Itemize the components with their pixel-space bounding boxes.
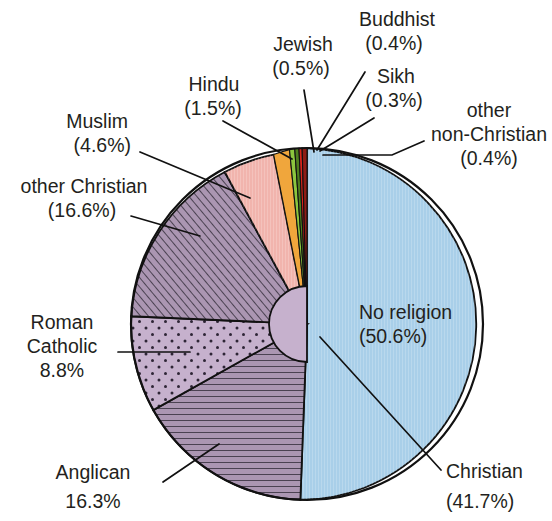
- label-jewish-name: Jewish: [273, 33, 333, 55]
- label-other-non-christian-line2: non-Christian: [431, 123, 547, 145]
- label-sikh-value: (0.3%): [365, 89, 422, 111]
- label-christian-value: (41.7%): [446, 490, 514, 512]
- label-hindu-value: (1.5%): [184, 97, 241, 119]
- label-other-christian-name: other Christian: [21, 175, 148, 197]
- slice-no-religion-texture: [300, 148, 476, 500]
- label-roman-catholic-line2: Catholic: [27, 335, 98, 357]
- pie-slices: [131, 148, 483, 500]
- label-other-non-christian-value: (0.4%): [460, 147, 517, 169]
- label-sikh-name: Sikh: [377, 65, 415, 87]
- label-no-religion-name: No religion: [359, 301, 452, 323]
- pie-chart-svg: Muslim (4.6%) Hindu (1.5%) Jewish (0.5%)…: [0, 0, 552, 521]
- label-muslim-value: (4.6%): [74, 134, 131, 156]
- label-buddhist-name: Buddhist: [359, 8, 435, 30]
- label-roman-catholic-line1: Roman: [31, 311, 94, 333]
- label-anglican-value: 16.3%: [65, 490, 120, 512]
- label-christian-name: Christian: [446, 460, 523, 482]
- label-other-non-christian-line1: other: [467, 99, 512, 121]
- leader-sikh: [320, 118, 374, 151]
- pie-chart-figure: Muslim (4.6%) Hindu (1.5%) Jewish (0.5%)…: [0, 0, 552, 521]
- label-anglican-name: Anglican: [56, 461, 131, 483]
- label-hindu-name: Hindu: [189, 73, 240, 95]
- label-muslim-name: Muslim: [66, 110, 128, 132]
- label-no-religion-value: (50.6%): [359, 325, 427, 347]
- leader-jewish: [304, 90, 314, 152]
- label-roman-catholic-value: 8.8%: [40, 359, 84, 381]
- label-other-christian-value: (16.6%): [48, 199, 116, 221]
- label-buddhist-value: (0.4%): [365, 32, 422, 54]
- leader-hindu: [223, 121, 292, 159]
- label-jewish-value: (0.5%): [272, 57, 329, 79]
